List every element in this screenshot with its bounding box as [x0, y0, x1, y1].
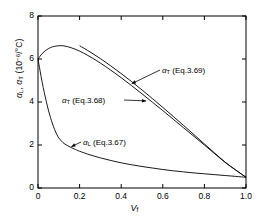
x-tick-label: 0.6 [153, 191, 173, 201]
y-tick-label: 8 [22, 10, 34, 20]
figure: αL, αT (10−6/°C) Vf 00.20.40.60.81.0 024… [0, 0, 269, 224]
x-tick-label: 0.2 [70, 191, 90, 201]
x-tick-label: 0 [28, 191, 48, 201]
y-tick-label: 6 [22, 53, 34, 63]
y-tick-label: 0 [22, 182, 34, 192]
leader-eq-3-68-arrowhead [142, 99, 146, 103]
x-tick-label: 0.4 [111, 191, 131, 201]
y-tick-label: 4 [22, 96, 34, 106]
leader-eq-3-69 [132, 70, 160, 84]
curve-3 [38, 59, 246, 177]
annotation-leaders [71, 70, 160, 147]
annotation-eq-3-67: αL (Eq.3.67) [83, 138, 126, 147]
y-tick-label: 2 [22, 139, 34, 149]
x-tick-label: 1.0 [236, 191, 256, 201]
data-curves [38, 46, 246, 178]
curve-2 [38, 46, 246, 178]
annotation-eq-3-69: αT (Eq.3.69) [162, 66, 205, 75]
x-axis-label: Vf [0, 203, 269, 213]
x-tick-label: 0.8 [194, 191, 214, 201]
y-axis-label: αL, αT (10−6/°C) [14, 8, 25, 128]
annotation-eq-3-68: αT (Eq.3.68) [62, 96, 105, 105]
